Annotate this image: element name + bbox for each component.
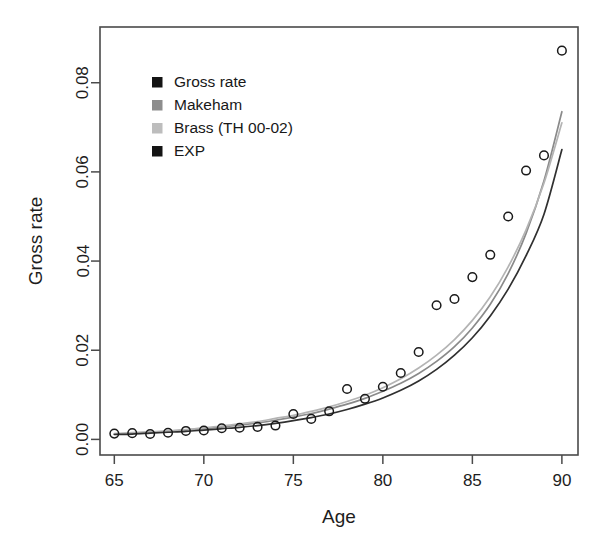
x-axis-tick-label: 80: [373, 471, 392, 490]
data-point-marker: [396, 369, 405, 378]
plot-frame: [100, 27, 578, 455]
y-axis-tick-label: 0.06: [74, 155, 93, 188]
data-point-marker: [468, 273, 477, 282]
data-point-marker: [450, 295, 459, 304]
x-axis-title: Age: [322, 506, 356, 527]
data-point-marker: [486, 251, 495, 260]
x-axis-tick-label: 75: [284, 471, 303, 490]
y-axis-tick-label: 0.08: [74, 66, 93, 99]
chart-figure: 6570758085900.000.020.040.060.08AgeGross…: [0, 0, 613, 547]
data-point-marker: [414, 348, 423, 357]
data-point-marker: [253, 423, 262, 432]
legend-swatch-brass-th-00-02: [152, 123, 163, 134]
series-line-exp: [114, 150, 562, 435]
x-axis-tick-label: 85: [463, 471, 482, 490]
data-point-marker: [432, 301, 441, 310]
y-axis-title: Gross rate: [25, 197, 46, 286]
x-axis-tick-label: 65: [105, 471, 124, 490]
legend-swatch-exp: [152, 146, 163, 157]
legend-label: EXP: [174, 142, 205, 159]
legend-label: Makeham: [174, 96, 242, 113]
chart-legend: Gross rateMakehamBrass (TH 00-02)EXP: [152, 73, 293, 159]
data-point-marker: [558, 46, 567, 55]
data-point-marker: [504, 212, 513, 221]
gross-rate-vs-age-chart: 6570758085900.000.020.040.060.08AgeGross…: [0, 0, 613, 547]
legend-label: Gross rate: [174, 73, 246, 90]
data-point-marker: [540, 151, 549, 160]
y-axis-tick-label: 0.00: [74, 423, 93, 456]
data-point-marker: [522, 166, 531, 175]
x-axis-tick-label: 90: [552, 471, 571, 490]
y-axis-tick-label: 0.04: [74, 245, 93, 278]
legend-swatch-makeham: [152, 100, 163, 111]
y-axis-tick-label: 0.02: [74, 334, 93, 367]
series-line-makeham: [114, 112, 562, 434]
legend-swatch-gross-rate: [152, 77, 163, 88]
x-axis-tick-label: 70: [194, 471, 213, 490]
data-point-marker: [343, 385, 352, 394]
legend-label: Brass (TH 00-02): [174, 119, 293, 136]
series-line-brass-th-00-02: [114, 123, 562, 434]
